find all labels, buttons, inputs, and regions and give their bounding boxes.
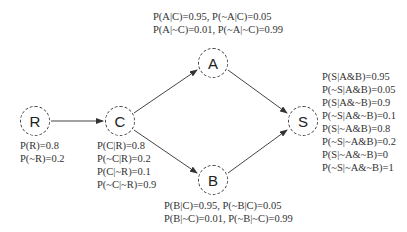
cpt-s-line: P(S|~A&~B)=0 xyxy=(322,148,396,161)
cpt-s-line: P(S|A&B)=0.95 xyxy=(322,70,396,83)
cpt-b-line: P(B|~C)=0.01, P(~B|~C)=0.99 xyxy=(164,212,293,225)
cpt-c-line: P(~C|~R)=0.9 xyxy=(97,178,156,191)
node-r: R xyxy=(20,106,50,136)
cpt-s-line: P(S|~A&B)=0.8 xyxy=(322,122,396,135)
cpt-c: P(C|R)=0.8 P(~C|R)=0.2 P(C|~R)=0.1 P(~C|… xyxy=(97,139,156,191)
edge-b-s xyxy=(228,130,287,173)
node-a: A xyxy=(198,48,228,78)
cpt-c-line: P(C|R)=0.8 xyxy=(97,139,156,152)
cpt-s: P(S|A&B)=0.95 P(~S|A&B)=0.05 P(S|A&~B)=0… xyxy=(322,70,396,174)
cpt-s-line: P(~S|A&B)=0.05 xyxy=(322,83,396,96)
cpt-s-line: P(~S|~A&B)=0.2 xyxy=(322,135,396,148)
cpt-a-line: P(A|C)=0.95, P(~A|C)=0.05 xyxy=(153,10,283,23)
edge-c-a xyxy=(134,70,197,113)
cpt-s-line: P(~S|~A&~B)=1 xyxy=(322,161,396,174)
cpt-b-line: P(B|C)=0.95, P(~B|C)=0.05 xyxy=(164,199,293,212)
cpt-c-line: P(C|~R)=0.1 xyxy=(97,165,156,178)
node-b: B xyxy=(198,165,228,195)
cpt-s-line: P(S|A&~B)=0.9 xyxy=(322,96,396,109)
cpt-a-line: P(A|~C)=0.01, P(~A|~C)=0.99 xyxy=(153,23,283,36)
edge-a-s xyxy=(228,70,287,113)
cpt-a: P(A|C)=0.95, P(~A|C)=0.05 P(A|~C)=0.01, … xyxy=(153,10,283,36)
cpt-r-line: P(R)=0.8 xyxy=(20,139,65,152)
cpt-r-line: P(~R)=0.2 xyxy=(20,152,65,165)
node-s: S xyxy=(288,106,318,136)
cpt-s-line: P(~S|A&~B)=0.1 xyxy=(322,109,396,122)
cpt-b: P(B|C)=0.95, P(~B|C)=0.05 P(B|~C)=0.01, … xyxy=(164,199,293,225)
cpt-c-line: P(~C|R)=0.2 xyxy=(97,152,156,165)
node-c: C xyxy=(105,106,135,136)
cpt-r: P(R)=0.8 P(~R)=0.2 xyxy=(20,139,65,165)
